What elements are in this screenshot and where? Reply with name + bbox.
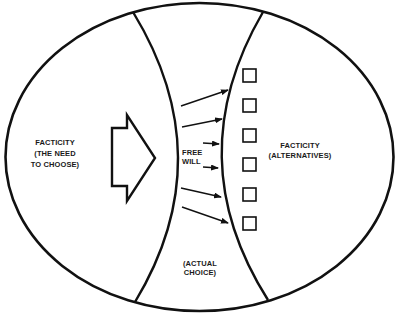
svg-text:FACTICITY: FACTICITY: [35, 138, 75, 147]
svg-text:CHOICE): CHOICE): [184, 268, 217, 277]
right-divider-curve: [222, 12, 268, 300]
alternatives-boxes: [243, 69, 256, 230]
alternative-box: [243, 158, 256, 171]
alternative-box: [243, 99, 256, 112]
arrow-3: [203, 143, 219, 144]
free-will-label: FREE WILL: [182, 148, 202, 166]
large-right-arrow-icon: [112, 115, 155, 201]
left-region-label: FACTICITY (THE NEED TO CHOOSE): [31, 138, 80, 169]
arrow-5: [181, 188, 221, 197]
svg-text:TO CHOOSE): TO CHOOSE): [31, 160, 80, 169]
actual-choice-label: (ACTUAL CHOICE): [183, 259, 217, 277]
alternative-box: [243, 129, 256, 142]
arrow-6: [182, 207, 228, 223]
svg-text:(THE NEED: (THE NEED: [34, 149, 76, 158]
arrow-2: [182, 119, 222, 127]
arrow-4: [203, 167, 218, 168]
arrow-1: [181, 90, 228, 106]
alternative-box: [243, 217, 256, 230]
alternative-box: [243, 69, 256, 82]
free-will-diagram: FACTICITY (THE NEED TO CHOOSE) FREE WILL…: [0, 0, 397, 316]
svg-text:WILL: WILL: [182, 157, 201, 166]
svg-text:(ACTUAL: (ACTUAL: [183, 259, 217, 268]
svg-text:(ALTERNATIVES): (ALTERNATIVES): [269, 151, 332, 160]
svg-text:FREE: FREE: [182, 148, 202, 157]
svg-text:FACTICITY: FACTICITY: [280, 141, 320, 150]
right-region-label: FACTICITY (ALTERNATIVES): [269, 141, 332, 160]
alternative-box: [243, 188, 256, 201]
